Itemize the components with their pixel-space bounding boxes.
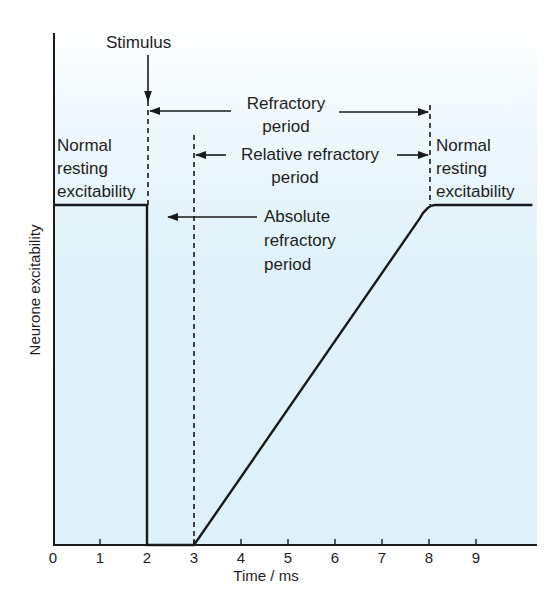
normal-right-label-line2: resting [436, 159, 487, 178]
x-tick-label: 4 [237, 549, 245, 566]
refractory-period-chart: 0123456789 Stimulus Refractory period Re… [0, 0, 557, 604]
normal-right-label-line3: excitability [436, 182, 515, 201]
x-tick-label: 8 [425, 549, 433, 566]
relative-label-line2: period [271, 168, 318, 187]
y-axis-title: Neurone excitability [26, 224, 43, 355]
stimulus-label: Stimulus [106, 33, 171, 52]
absolute-label-line3: period [264, 255, 311, 274]
x-tick-label: 2 [143, 549, 151, 566]
x-tick-label: 9 [472, 549, 480, 566]
normal-left-label-line2: resting [57, 159, 108, 178]
x-tick-label: 0 [49, 549, 57, 566]
normal-left-label-line1: Normal [57, 136, 112, 155]
absolute-label-line1: Absolute [264, 207, 330, 226]
x-tick-label: 1 [96, 549, 104, 566]
absolute-label-line2: refractory [264, 231, 336, 250]
x-tick-label: 5 [284, 549, 292, 566]
relative-label-line1: Relative refractory [241, 145, 379, 164]
x-tick-label: 6 [331, 549, 339, 566]
normal-right-label-line1: Normal [436, 136, 491, 155]
x-axis-title: Time / ms [233, 567, 298, 584]
x-tick-label: 3 [190, 549, 198, 566]
normal-left-label-line3: excitability [57, 182, 136, 201]
refractory-label-line1: Refractory [247, 94, 326, 113]
x-tick-label: 7 [378, 549, 386, 566]
refractory-label-line2: period [262, 117, 309, 136]
